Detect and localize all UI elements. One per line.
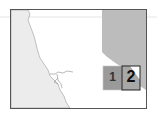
box-2-label: 2 [122, 68, 140, 86]
coastal-land [11, 10, 70, 108]
locator-map: 1 2 [0, 0, 157, 118]
box-1-label: 1 [103, 70, 122, 84]
map-canvas [0, 0, 157, 118]
